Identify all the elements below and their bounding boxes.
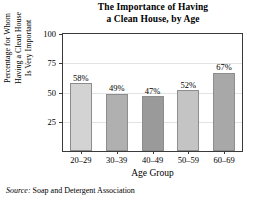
bar-value-label: 52% [181, 80, 197, 90]
y-axis-tick [59, 122, 63, 123]
x-axis-tick [153, 151, 154, 154]
bar-value-label: 67% [216, 62, 232, 72]
source-note: Source: Soap and Detergent Association [6, 186, 135, 195]
y-axis-tick-label: 25 [34, 117, 56, 127]
y-axis-title-line-3: Is Very Important [24, 0, 35, 110]
source-text: Soap and Detergent Association [33, 186, 135, 195]
y-axis-tick-label: 100 [34, 29, 56, 39]
x-axis-tick [81, 151, 82, 154]
x-axis-tick-label: 50–59 [178, 155, 199, 165]
bar: 67% [213, 73, 235, 151]
x-axis-title: Age Group [62, 168, 243, 178]
bar: 58% [70, 83, 92, 151]
chart-title-line-1: The Importance of Having [58, 2, 248, 14]
y-axis-title-line-2: Having a Clean House [14, 0, 25, 110]
bar: 52% [177, 90, 199, 151]
bar: 47% [142, 96, 164, 151]
x-axis-tick-label: 60–69 [213, 155, 234, 165]
y-axis-title-line-1: Percentage for Whom [3, 0, 14, 110]
x-axis-tick-label: 20–29 [70, 155, 91, 165]
x-axis-tick-label: 40–49 [142, 155, 163, 165]
gridline [63, 63, 242, 64]
y-axis-tick-label: 75 [34, 58, 56, 68]
bar-value-label: 58% [73, 73, 89, 83]
x-axis-tick-label: 30–39 [106, 155, 127, 165]
x-axis-tick [188, 151, 189, 154]
chart-title: The Importance of Having a Clean House, … [58, 2, 248, 25]
y-axis-tick-label: 50 [34, 88, 56, 98]
bar-value-label: 47% [145, 86, 161, 96]
plot-area: 10075502558%20–2949%30–3947%40–4952%50–5… [62, 33, 243, 152]
x-axis-tick [117, 151, 118, 154]
y-axis-tick [59, 34, 63, 35]
y-axis-tick [59, 93, 63, 94]
chart-figure: The Importance of Having a Clean House, … [0, 0, 259, 204]
bar: 49% [106, 94, 128, 151]
x-axis-tick [224, 151, 225, 154]
bar-value-label: 49% [109, 83, 125, 93]
chart-title-line-2: a Clean House, by Age [58, 14, 248, 26]
y-axis-tick [59, 63, 63, 64]
source-label: Source: [6, 186, 31, 195]
